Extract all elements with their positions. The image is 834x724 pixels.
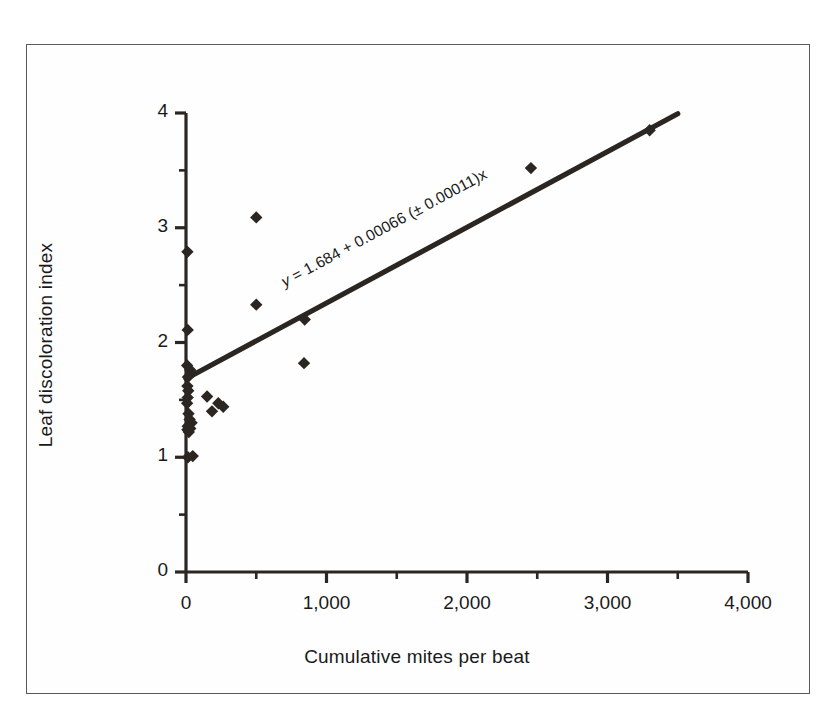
data-points: [181, 124, 656, 463]
y-tick-label: 1: [108, 444, 168, 466]
y-tick-label: 3: [108, 215, 168, 237]
data-point-marker: [181, 246, 193, 258]
plot-stage: 01,0002,0003,0004,000 01234 y = 1.684 + …: [0, 0, 834, 724]
regression-line: [186, 114, 678, 379]
data-point-marker: [250, 211, 262, 223]
y-axis-major-ticks: [175, 113, 186, 572]
data-point-marker: [298, 357, 310, 369]
x-tick-label: 0: [141, 592, 231, 614]
data-point-marker: [250, 298, 262, 310]
y-tick-label: 0: [108, 559, 168, 581]
x-tick-label: 1,000: [282, 592, 372, 614]
data-point-marker: [181, 324, 193, 336]
data-point-marker: [201, 390, 213, 402]
x-axis-major-ticks: [186, 572, 748, 583]
regression-trend-line: [186, 114, 678, 379]
y-tick-label: 2: [108, 330, 168, 352]
y-tick-label: 4: [108, 100, 168, 122]
x-tick-label: 2,000: [422, 592, 512, 614]
data-point-marker: [525, 162, 537, 174]
x-tick-label: 3,000: [563, 592, 653, 614]
x-axis-title: Cumulative mites per beat: [0, 646, 834, 668]
y-axis-title: Leaf discoloration index: [35, 135, 57, 555]
x-tick-label: 4,000: [703, 592, 793, 614]
